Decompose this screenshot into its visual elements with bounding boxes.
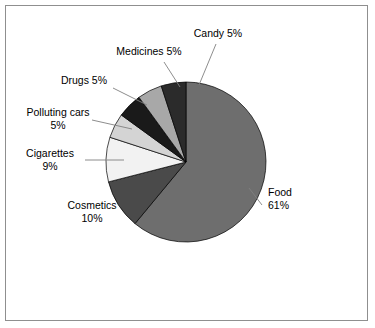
slice-label-food-name: Food	[268, 186, 338, 199]
slice-label-polluting-cars: Polluting cars 5%	[20, 106, 96, 131]
slice-label-cigarettes: Cigarettes 9%	[12, 147, 88, 172]
slice-label-cosmetics: Cosmetics 10%	[54, 199, 130, 224]
slice-label-medicines-text: Medicines 5%	[104, 45, 194, 58]
slice-label-cosmetics-value: 10%	[54, 212, 130, 225]
slice-label-cigarettes-name: Cigarettes	[12, 147, 88, 160]
slice-label-food: Food 61%	[268, 186, 338, 211]
slice-label-candy: Candy 5%	[178, 27, 258, 40]
slice-label-polluting-cars-name: Polluting cars	[20, 106, 96, 119]
slice-label-cosmetics-name: Cosmetics	[54, 199, 130, 212]
slice-label-polluting-cars-value: 5%	[20, 119, 96, 132]
slice-label-candy-text: Candy 5%	[178, 27, 258, 40]
pie-slices-group	[106, 82, 266, 242]
leader-line-candy	[199, 44, 216, 85]
slice-label-cigarettes-value: 9%	[12, 160, 88, 173]
slice-label-drugs-text: Drugs 5%	[50, 74, 118, 87]
slice-label-medicines: Medicines 5%	[104, 45, 194, 58]
slice-label-food-value: 61%	[268, 199, 338, 212]
slice-label-drugs: Drugs 5%	[50, 74, 118, 87]
pie-chart-figure: Candy 5% Medicines 5% Drugs 5% Polluting…	[0, 0, 375, 328]
